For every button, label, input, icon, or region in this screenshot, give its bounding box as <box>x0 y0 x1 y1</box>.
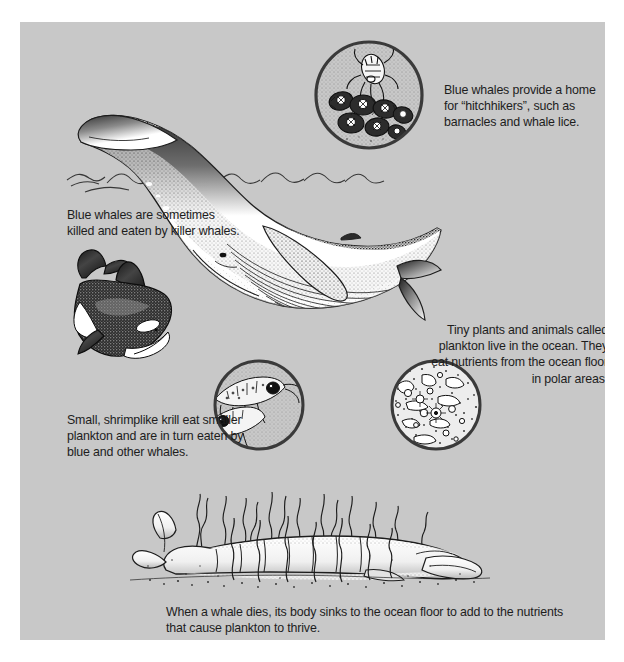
whale-head-tip <box>78 115 177 150</box>
barnacle-detail-circle <box>309 35 429 155</box>
caption-plankton: Tiny plants and animals called plankton … <box>428 322 605 387</box>
diagram-panel: Blue whales provide a home for “hitchhik… <box>20 22 605 640</box>
caption-dead-whale: When a whale dies, its body sinks to the… <box>166 604 566 636</box>
killer-whale-illustration <box>56 244 206 379</box>
caption-killer-whales: Blue whales are sometimes killed and eat… <box>67 207 242 239</box>
caption-krill: Small, shrimplike krill eat smaller plan… <box>67 412 247 461</box>
caption-hitchhikers: Blue whales provide a home for “hitchhik… <box>444 82 605 131</box>
dorsal-fin <box>341 234 361 241</box>
diagram-page: Blue whales provide a home for “hitchhik… <box>0 0 624 662</box>
whale-carcass <box>133 511 482 580</box>
dead-whale-seafloor-illustration <box>130 462 490 592</box>
whale-eye <box>220 253 227 258</box>
tail-fluke <box>397 260 441 320</box>
